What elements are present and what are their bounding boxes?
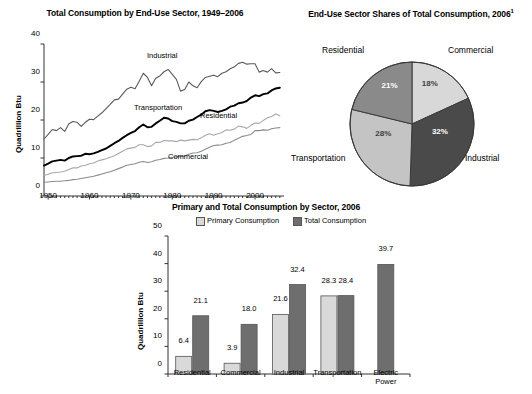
line-series-residential <box>44 114 280 176</box>
bar-value-primary: 3.9 <box>223 343 241 352</box>
line-label-residential: Residential <box>200 111 237 120</box>
pie-label-transportation: Transportation <box>291 153 346 163</box>
bar-category-label: Residential <box>166 368 218 377</box>
legend-swatch-primary <box>196 217 205 226</box>
pie-chart-title-text: End-Use Sector Shares of Total Consumpti… <box>308 9 510 19</box>
line-chart-plot <box>0 18 290 210</box>
pie-label-residential: Residential <box>322 45 364 55</box>
bar-value-primary: 21.6 <box>272 294 290 303</box>
bar-y-tick: 30 <box>144 276 162 285</box>
bar-value-total: 28.4 <box>337 276 355 285</box>
line-x-tick: 1960 <box>77 191 103 200</box>
line-y-tick: 0 <box>22 181 40 190</box>
bar-value-total: 39.7 <box>377 244 395 253</box>
pie-percent-residential: 21% <box>382 81 398 90</box>
line-x-tick: 1950 <box>35 191 61 200</box>
bar-y-tick: 50 <box>144 221 162 230</box>
bar-chart-title: Primary and Total Consumption by Sector,… <box>110 202 422 212</box>
bar-total-electric-power <box>378 264 394 374</box>
bar-total-commercial <box>241 324 257 374</box>
bar-total-industrial <box>290 285 306 374</box>
line-label-industrial: Industrial <box>147 51 177 60</box>
line-x-tick: 1970 <box>118 191 144 200</box>
bar-chart-primary-total: Primary and Total Consumption by Sector,… <box>110 202 422 394</box>
pie-chart-sector-shares: End-Use Sector Shares of Total Consumpti… <box>290 8 532 200</box>
line-y-tick: 30 <box>22 67 40 76</box>
bar-category-label: Electric Power <box>360 368 412 386</box>
pie-label-industrial: Industrial <box>465 153 500 163</box>
pie-label-commercial: Commercial <box>448 45 493 55</box>
line-series-transportation <box>44 88 280 166</box>
bar-y-tick: 40 <box>144 249 162 258</box>
pie-percent-industrial: 32% <box>432 127 448 136</box>
line-y-tick: 20 <box>22 105 40 114</box>
bar-value-total: 21.1 <box>192 296 210 305</box>
bar-category-label: Commercial <box>215 368 267 377</box>
bar-total-transportation <box>338 296 354 374</box>
line-x-tick: 2000 <box>242 191 268 200</box>
bar-y-tick: 20 <box>144 304 162 313</box>
bar-primary-industrial <box>273 314 289 374</box>
bar-total-residential <box>193 316 209 374</box>
legend-label-total: Total Consumption <box>304 216 366 225</box>
pie-percent-commercial: 18% <box>422 79 438 88</box>
line-label-commercial: Commercial <box>168 152 208 161</box>
bar-y-tick: 10 <box>144 331 162 340</box>
bar-chart-y-axis-label: Quadrillion Btu <box>136 292 145 350</box>
line-y-tick: 10 <box>22 143 40 152</box>
line-chart-title: Total Consumption by End-Use Sector, 194… <box>0 8 290 18</box>
bar-primary-transportation <box>321 296 337 374</box>
bar-category-label: Transportation <box>311 368 363 377</box>
line-label-transportation: Transportation <box>134 103 182 112</box>
line-chart-total-consumption: Total Consumption by End-Use Sector, 194… <box>0 8 290 200</box>
pie-chart-title: End-Use Sector Shares of Total Consumpti… <box>290 8 532 19</box>
bar-y-tick: 0 <box>144 359 162 368</box>
bar-value-primary: 28.3 <box>320 276 338 285</box>
bar-value-total: 18.0 <box>240 304 258 313</box>
bar-value-primary: 6.4 <box>175 336 193 345</box>
legend-swatch-total <box>293 217 302 226</box>
legend-label-primary: Primary Consumption <box>207 216 279 225</box>
line-x-tick: 1980 <box>159 191 185 200</box>
bar-value-total: 32.4 <box>289 265 307 274</box>
line-x-tick: 1990 <box>201 191 227 200</box>
line-y-tick: 40 <box>22 29 40 38</box>
bar-category-label: Industrial <box>263 368 315 377</box>
pie-percent-transportation: 28% <box>375 129 391 138</box>
pie-chart-title-footnote: 1 <box>511 8 514 14</box>
